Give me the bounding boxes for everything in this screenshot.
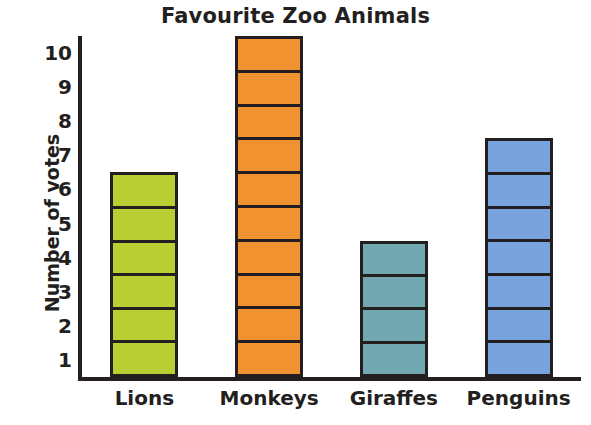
bar-unit-block — [113, 175, 175, 209]
bar-unit-block — [238, 309, 300, 343]
bar-unit-block — [238, 343, 300, 374]
bar-unit-block — [238, 276, 300, 310]
y-axis-tick-label: 8 — [0, 111, 72, 131]
bar-slot — [235, 36, 303, 377]
bar-unit-block — [238, 208, 300, 242]
y-axis-tick-label: 4 — [0, 248, 72, 268]
plot-area — [82, 36, 581, 377]
x-axis-label-giraffes: Giraffes — [332, 386, 457, 410]
bar-unit-block — [488, 343, 550, 374]
x-axis-label-penguins: Penguins — [456, 386, 581, 410]
bar-unit-block — [238, 107, 300, 141]
bar-unit-block — [238, 39, 300, 73]
bar-monkeys[interactable] — [235, 36, 303, 377]
bar-unit-block — [488, 310, 550, 344]
bar-unit-block — [113, 276, 175, 310]
bar-unit-block — [488, 209, 550, 243]
bar-unit-block — [488, 276, 550, 310]
bar-unit-block — [238, 73, 300, 107]
bar-giraffes[interactable] — [360, 241, 428, 377]
bar-lions[interactable] — [110, 172, 178, 377]
bar-unit-block — [488, 175, 550, 209]
bar-unit-block — [113, 343, 175, 374]
bar-slot — [110, 36, 178, 377]
x-axis-line — [78, 377, 581, 381]
y-axis-tick-label: 10 — [0, 43, 72, 63]
bar-unit-block — [363, 310, 425, 343]
bar-unit-block — [113, 243, 175, 277]
bar-slot — [485, 36, 553, 377]
bar-unit-block — [363, 244, 425, 277]
bar-unit-block — [113, 209, 175, 243]
y-axis-tick-label: 1 — [0, 350, 72, 370]
y-axis-tick-label: 3 — [0, 282, 72, 302]
y-axis-tick-labels: 10987654321 — [0, 0, 72, 425]
bar-unit-block — [238, 140, 300, 174]
x-axis-label-lions: Lions — [82, 386, 207, 410]
y-axis-tick-label: 9 — [0, 77, 72, 97]
bar-unit-block — [238, 174, 300, 208]
bar-unit-block — [363, 344, 425, 374]
bar-unit-block — [238, 242, 300, 276]
chart-title: Favourite Zoo Animals — [0, 4, 591, 28]
bar-penguins[interactable] — [485, 138, 553, 377]
x-axis-label-monkeys: Monkeys — [207, 386, 332, 410]
bar-unit-block — [488, 141, 550, 175]
y-axis-tick-label: 6 — [0, 179, 72, 199]
y-axis-tick-label: 5 — [0, 214, 72, 234]
bar-slot — [360, 36, 428, 377]
bar-chart: Favourite Zoo Animals Number of votes 10… — [0, 0, 591, 425]
bar-unit-block — [488, 242, 550, 276]
bar-unit-block — [363, 277, 425, 310]
bar-unit-block — [113, 310, 175, 344]
x-axis-category-labels: LionsMonkeysGiraffesPenguins — [82, 386, 581, 424]
y-axis-tick-label: 7 — [0, 145, 72, 165]
y-axis-tick-label: 2 — [0, 316, 72, 336]
